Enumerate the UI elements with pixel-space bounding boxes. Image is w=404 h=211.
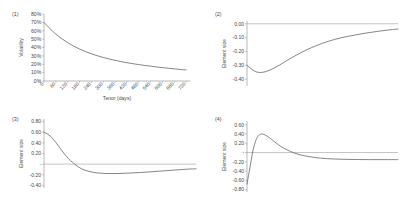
svg-text:480: 480: [129, 81, 139, 91]
svg-text:80%: 80%: [31, 11, 42, 17]
svg-text:Element size: Element size: [221, 39, 227, 68]
svg-text:-0.10: -0.10: [233, 34, 245, 40]
panel-3-plot: 0.800.600.400.20--0.20-0.40Element size: [0, 105, 202, 210]
svg-text:-0.40: -0.40: [233, 76, 245, 82]
svg-text:10%: 10%: [31, 69, 42, 75]
svg-text:0.60: 0.60: [31, 129, 41, 135]
svg-text:-: -: [242, 149, 244, 155]
panel-4-element-size: (4) 0.600.400.20--0.20-0.40-0.60-0.80Ele…: [202, 105, 404, 210]
svg-text:Volatility: Volatility: [18, 38, 24, 57]
panel-4-plot: 0.600.400.20--0.20-0.40-0.60-0.80Element…: [202, 105, 404, 210]
svg-text:-0.40: -0.40: [30, 182, 42, 188]
svg-text:180: 180: [70, 81, 80, 91]
svg-text:Tenor (days): Tenor (days): [103, 95, 132, 101]
svg-text:0.20: 0.20: [234, 140, 244, 146]
svg-text:0.60: 0.60: [234, 122, 244, 128]
svg-text:-0.80: -0.80: [233, 186, 245, 192]
svg-text:0.40: 0.40: [31, 140, 41, 146]
svg-text:240: 240: [82, 81, 92, 91]
panel-2-plot: 0.00-0.10-0.20-0.30-0.40Element size: [202, 0, 404, 105]
svg-text:360: 360: [106, 81, 116, 91]
svg-text:60%: 60%: [31, 28, 42, 34]
svg-text:-0.20: -0.20: [233, 159, 245, 165]
svg-text:-0.30: -0.30: [233, 62, 245, 68]
svg-text:60: 60: [48, 81, 56, 89]
svg-text:420: 420: [117, 81, 127, 91]
svg-text:-0.20: -0.20: [30, 172, 42, 178]
svg-text:-0.40: -0.40: [233, 168, 245, 174]
svg-text:40%: 40%: [31, 44, 42, 50]
svg-text:660: 660: [165, 81, 175, 91]
svg-text:0.20: 0.20: [31, 150, 41, 156]
svg-text:540: 540: [141, 81, 151, 91]
svg-text:0.00: 0.00: [234, 21, 244, 27]
panel-3-element-size: (3) 0.800.600.400.20--0.20-0.40Element s…: [0, 105, 202, 210]
panel-1-plot: 0%10%20%30%40%50%60%70%80%06012018024030…: [0, 0, 202, 105]
svg-text:720: 720: [177, 81, 187, 91]
svg-text:20%: 20%: [31, 61, 42, 67]
svg-text:Element size: Element size: [221, 142, 227, 171]
svg-text:Element size: Element size: [18, 139, 24, 168]
panel-2-element-size: (2) 0.00-0.10-0.20-0.30-0.40Element size: [202, 0, 404, 105]
svg-text:-0.20: -0.20: [233, 48, 245, 54]
svg-text:300: 300: [94, 81, 104, 91]
svg-text:600: 600: [153, 81, 163, 91]
svg-text:50%: 50%: [31, 36, 42, 42]
svg-text:0.40: 0.40: [234, 131, 244, 137]
svg-text:-0.60: -0.60: [233, 177, 245, 183]
svg-text:120: 120: [58, 81, 68, 91]
svg-text:30%: 30%: [31, 53, 42, 59]
panel-1-volatility: (1) 0%10%20%30%40%50%60%70%80%0601201802…: [0, 0, 202, 105]
svg-text:0.80: 0.80: [31, 118, 41, 124]
svg-text:70%: 70%: [31, 19, 42, 25]
figure-multi-panel: (1) 0%10%20%30%40%50%60%70%80%0601201802…: [0, 0, 404, 211]
svg-text:-: -: [39, 161, 41, 167]
